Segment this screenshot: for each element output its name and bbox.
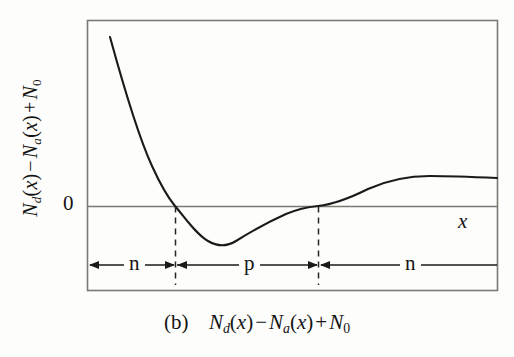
arrowhead-left-2 <box>177 261 187 269</box>
y-axis-label: Nd(x)−Na(x)+N0 <box>14 8 50 288</box>
symbol-N-d: N <box>19 203 41 217</box>
plot-frame <box>88 21 498 291</box>
caption-prefix: (b) <box>164 310 189 334</box>
y-tick-label-zero: 0 <box>63 193 74 214</box>
arrowhead-right-1 <box>165 261 175 269</box>
figure-caption: (b) Nd(x)−Na(x)+N0 <box>0 310 514 337</box>
figure-container: Nd(x)−Na(x)+N0 0 x n p n (b) Nd(x)−Na(x)… <box>0 0 514 357</box>
plot-canvas <box>0 0 514 357</box>
caption-math: Nd(x)−Na(x)+N0 <box>209 310 350 334</box>
symbol-N-0: N <box>19 86 41 100</box>
curve-net-doping <box>110 37 497 245</box>
arrowhead-left-3 <box>320 261 330 269</box>
y-axis-label-math: Nd(x)−Na(x)+N0 <box>19 79 45 217</box>
arrowhead-right-2 <box>308 261 318 269</box>
region-label-p-middle: p <box>239 253 260 274</box>
region-label-n-left: n <box>124 253 145 274</box>
arrowhead-left-1 <box>89 261 99 269</box>
x-axis-label: x <box>458 211 467 232</box>
symbol-N-a: N <box>19 145 41 159</box>
region-label-n-right: n <box>400 253 421 274</box>
